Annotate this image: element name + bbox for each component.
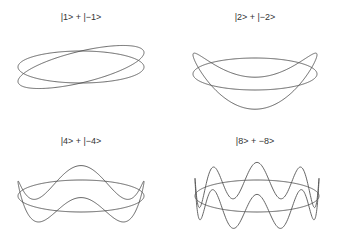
flat-ring-n1 bbox=[18, 51, 144, 83]
flat-ring-n8 bbox=[195, 180, 319, 212]
wave-ring-n2 bbox=[193, 53, 317, 109]
flat-ring-n4 bbox=[18, 180, 144, 212]
figure: |1> + |−1> |2> + |−2> |4> + |−4> |8> + −… bbox=[0, 0, 338, 250]
wave-ring-n1 bbox=[18, 45, 144, 88]
wave-ring-n4 bbox=[18, 166, 144, 222]
wave-ring-n8 bbox=[195, 162, 319, 228]
curves-canvas bbox=[0, 0, 338, 250]
